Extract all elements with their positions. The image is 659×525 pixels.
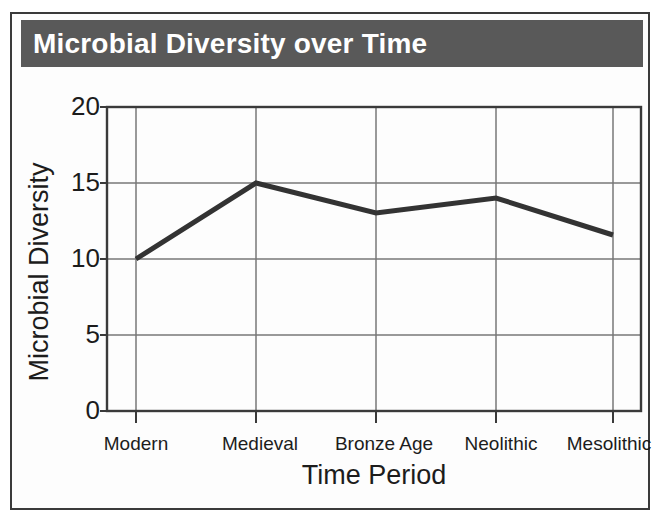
plot-area: Microbial Diversity 20 15 10 5 0 [12, 14, 648, 508]
y-tick-label-5: 5 [86, 319, 100, 349]
x-tick-label-modern: Modern [104, 433, 168, 454]
y-tick-label-10: 10 [71, 243, 100, 273]
x-axis-title: Time Period [302, 460, 447, 490]
y-tick-label-20: 20 [71, 91, 100, 121]
data-line-microbial-diversity [136, 183, 613, 259]
x-tick-label-bronze-age: Bronze Age [335, 433, 433, 454]
x-tick-label-mesolithic: Mesolithic [567, 433, 651, 454]
y-tick-label-15: 15 [71, 167, 100, 197]
x-tick-label-medieval: Medieval [222, 433, 298, 454]
x-tick-label-neolithic: Neolithic [465, 433, 538, 454]
y-tick-label-0: 0 [86, 395, 100, 425]
y-axis-title: Microbial Diversity [24, 162, 54, 382]
chart-card: Microbial Diversity over Time Microbial … [10, 12, 650, 510]
line-chart-svg: Microbial Diversity 20 15 10 5 0 [12, 14, 652, 512]
